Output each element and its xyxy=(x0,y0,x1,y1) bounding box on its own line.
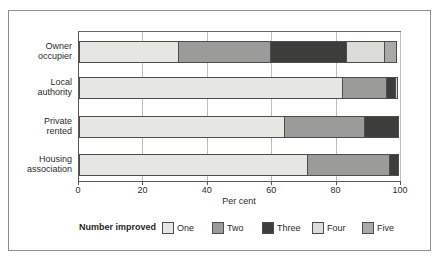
legend-label-one: One xyxy=(177,223,194,233)
segment-private-rented-one xyxy=(79,116,285,138)
segment-local-authority-four xyxy=(395,77,398,99)
segment-private-rented-three xyxy=(364,116,399,138)
category-label-owner-occupier: Owneroccupier xyxy=(6,40,72,62)
segment-owner-occupier-three xyxy=(270,41,347,63)
tick-label-80: 80 xyxy=(323,185,349,195)
legend: Number improved OneTwoThreeFourFive xyxy=(0,220,439,238)
tick-label-40: 40 xyxy=(194,185,220,195)
category-label-line: Owner xyxy=(6,41,72,52)
bar-private-rented xyxy=(79,116,401,138)
category-label-private-rented: Privaterented xyxy=(6,115,72,137)
tick-label-20: 20 xyxy=(129,185,155,195)
segment-owner-occupier-two xyxy=(178,41,271,63)
legend-label-two: Two xyxy=(227,223,244,233)
legend-swatch-two xyxy=(212,222,224,234)
legend-label-four: Four xyxy=(327,223,346,233)
segment-local-authority-two xyxy=(342,77,387,99)
category-label-local-authority: Localauthority xyxy=(6,76,72,98)
category-label-line: authority xyxy=(6,87,72,98)
tick-label-0: 0 xyxy=(65,185,91,195)
legend-swatch-one xyxy=(162,222,174,234)
legend-item-two: Two xyxy=(212,220,244,235)
tick-label-100: 100 xyxy=(387,185,413,195)
segment-private-rented-two xyxy=(284,116,365,138)
category-label-line: Private xyxy=(6,116,72,127)
x-axis-title: Per cent xyxy=(78,196,400,206)
legend-swatch-four xyxy=(312,222,324,234)
legend-swatch-five xyxy=(362,222,374,234)
chart-figure: OwneroccupierLocalauthorityPrivaterented… xyxy=(0,0,439,260)
legend-title: Number improved xyxy=(52,222,156,232)
legend-item-four: Four xyxy=(312,220,346,235)
category-label-housing-association: Housingassociation xyxy=(6,153,72,175)
segment-housing-association-one xyxy=(79,154,308,176)
segment-owner-occupier-four xyxy=(346,41,385,63)
segment-housing-association-three xyxy=(389,154,399,176)
tick-label-60: 60 xyxy=(258,185,284,195)
segment-local-authority-one xyxy=(79,77,343,99)
category-label-line: association xyxy=(6,164,72,175)
bar-local-authority xyxy=(79,77,401,99)
legend-label-three: Three xyxy=(277,223,301,233)
legend-swatch-three xyxy=(262,222,274,234)
legend-item-one: One xyxy=(162,220,194,235)
plot-area xyxy=(78,31,401,182)
bar-housing-association xyxy=(79,154,401,176)
category-label-line: occupier xyxy=(6,51,72,62)
legend-label-five: Five xyxy=(377,223,394,233)
category-label-line: rented xyxy=(6,126,72,137)
segment-owner-occupier-one xyxy=(79,41,179,63)
bar-owner-occupier xyxy=(79,41,401,63)
category-label-line: Local xyxy=(6,77,72,88)
segment-owner-occupier-five xyxy=(384,41,397,63)
segment-housing-association-two xyxy=(307,154,391,176)
legend-item-five: Five xyxy=(362,220,394,235)
category-label-line: Housing xyxy=(6,154,72,165)
legend-item-three: Three xyxy=(262,220,301,235)
